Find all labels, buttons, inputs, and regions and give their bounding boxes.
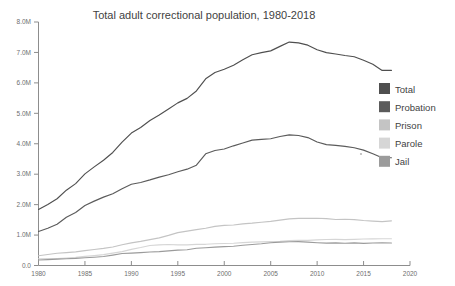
series-line-probation	[39, 135, 392, 232]
x-tick-label: 1980	[31, 270, 46, 277]
series-line-jail	[39, 242, 392, 260]
legend-label: Total	[395, 84, 415, 95]
stray-marker-dot	[360, 153, 362, 155]
x-tick-label: 2015	[356, 270, 371, 277]
y-tick-label: 7.0M	[17, 49, 31, 56]
y-tick-label: 0.0	[22, 262, 31, 269]
y-tick-label: 5.0M	[17, 110, 31, 117]
chart-legend: TotalProbationPrisonParoleJail	[379, 83, 436, 167]
legend-swatch-prison	[379, 119, 390, 130]
x-tick-label: 1995	[171, 270, 186, 277]
x-axis: 198019851990199520002005201020152020	[31, 261, 417, 277]
series-line-total	[39, 42, 392, 209]
y-tick-label: 3.0M	[17, 170, 31, 177]
legend-item-parole[interactable]: Parole	[379, 138, 422, 150]
x-tick-label: 2020	[403, 270, 418, 277]
legend-swatch-parole	[379, 138, 390, 149]
legend-item-prison[interactable]: Prison	[379, 119, 422, 130]
legend-item-total[interactable]: Total	[379, 83, 415, 95]
legend-swatch-probation	[379, 101, 390, 112]
legend-label: Prison	[395, 120, 422, 131]
legend-swatch-total	[379, 83, 390, 94]
legend-label: Jail	[395, 156, 409, 167]
y-tick-label: 8.0M	[17, 18, 31, 25]
chart-title: Total adult correctional population, 198…	[93, 9, 316, 21]
x-tick-label: 2005	[263, 270, 278, 277]
legend-label: Parole	[395, 138, 422, 149]
y-tick-label: 1.0M	[17, 231, 31, 238]
chart-figure: Total adult correctional population, 198…	[0, 0, 455, 286]
series-line-prison	[39, 218, 392, 256]
x-tick-label: 1985	[78, 270, 93, 277]
y-tick-label: 4.0M	[17, 140, 31, 147]
y-axis: 0.01.0M2.0M3.0M4.0M5.0M6.0M7.0M8.0M	[17, 18, 39, 268]
legend-swatch-jail	[379, 156, 390, 167]
y-tick-label: 6.0M	[17, 79, 31, 86]
y-axis-ticks: 0.01.0M2.0M3.0M4.0M5.0M6.0M7.0M8.0M	[17, 18, 39, 268]
legend-item-jail[interactable]: Jail	[379, 156, 409, 168]
line-chart: Total adult correctional population, 198…	[0, 0, 455, 286]
x-tick-label: 2010	[310, 270, 325, 277]
series-line-parole	[39, 239, 392, 259]
x-axis-ticks: 198019851990199520002005201020152020	[31, 261, 417, 277]
legend-label: Probation	[395, 102, 436, 113]
x-tick-label: 1990	[124, 270, 139, 277]
y-tick-label: 2.0M	[17, 201, 31, 208]
x-tick-label: 2000	[217, 270, 232, 277]
legend-item-probation[interactable]: Probation	[379, 101, 436, 113]
series-lines	[39, 42, 392, 260]
